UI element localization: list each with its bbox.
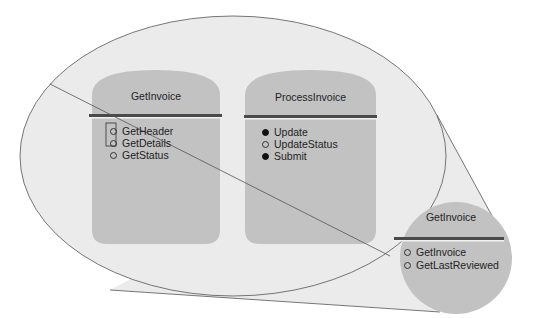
filled-bullet-icon: [262, 129, 269, 136]
component-processinvoice: ProcessInvoice Update UpdateStatus Submi…: [245, 70, 376, 244]
operation-item: UpdateStatus: [262, 138, 338, 150]
open-bullet-icon: [110, 152, 117, 159]
open-bullet-icon: [262, 141, 269, 148]
open-bullet-icon: [404, 249, 411, 256]
operation-item: GetStatus: [110, 149, 169, 161]
component-getinvoice: GetInvoice GetHeader GetDetails GetStatu…: [92, 70, 220, 244]
operation-item: Submit: [262, 150, 307, 162]
filled-bullet-icon: [262, 153, 269, 160]
open-bullet-icon: [110, 128, 117, 135]
callout-title: GetInvoice: [396, 211, 506, 223]
component-title: ProcessInvoice: [245, 91, 376, 103]
open-bullet-icon: [110, 140, 117, 147]
operation-item: GetHeader: [110, 125, 173, 137]
operation-item: GetLastReviewed: [404, 259, 499, 271]
component-title: GetInvoice: [92, 90, 220, 102]
operation-item: GetDetails: [110, 137, 171, 149]
open-bullet-icon: [404, 262, 411, 269]
callout-component-getinvoice: GetInvoice GetInvoice GetLastReviewed: [396, 202, 506, 312]
zoom-ellipse: [20, 16, 446, 296]
operation-item: Update: [262, 126, 308, 138]
operation-item: GetInvoice: [404, 246, 466, 258]
